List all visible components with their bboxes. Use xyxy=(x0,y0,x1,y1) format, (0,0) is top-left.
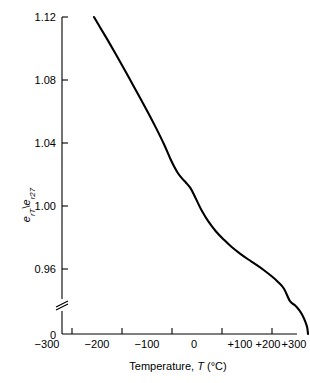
x-title-word: Temperature, xyxy=(129,360,194,372)
x-axis-title: Temperature, T (°C) xyxy=(129,360,226,372)
x-title-units: (°C) xyxy=(207,360,227,372)
x-tick-marks xyxy=(72,328,272,334)
x-tick-label-plus-200: +200 xyxy=(256,338,281,350)
y-tick-label-0-96: 0.96 xyxy=(35,263,56,275)
y-tick-label-1-00: 1.00 xyxy=(35,200,56,212)
x-tick-label-plus-100: +100 xyxy=(228,338,253,350)
x-tick-label-plus-300: +300 xyxy=(282,338,307,350)
y-axis-break-icon xyxy=(56,299,69,311)
y-title-sub2: r27 xyxy=(28,187,37,199)
permittivity-temperature-chart: 1.12 1.08 1.04 1.00 0.96 0 −300 −200 −10… xyxy=(0,0,310,383)
y-tick-label-1-12: 1.12 xyxy=(35,11,56,23)
chart-figure: 1.12 1.08 1.04 1.00 0.96 0 −300 −200 −10… xyxy=(0,0,310,383)
x-tick-label-zero: 0 xyxy=(191,338,197,350)
y-tick-label-1-08: 1.08 xyxy=(35,74,56,86)
permittivity-curve xyxy=(94,17,308,334)
x-tick-label-minus-100: −100 xyxy=(135,338,160,350)
y-tick-marks xyxy=(62,17,68,269)
x-tick-label-minus-300: −300 xyxy=(35,338,60,350)
x-tick-label-minus-200: −200 xyxy=(85,338,110,350)
y-tick-label-1-04: 1.04 xyxy=(35,137,56,149)
